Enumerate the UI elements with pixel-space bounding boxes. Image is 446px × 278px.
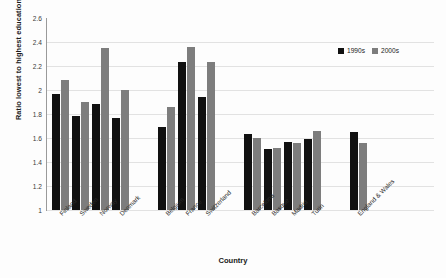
bar-group	[283, 18, 303, 210]
legend-item-1990s: 1990s	[338, 47, 365, 54]
bar-1990s-finland	[52, 94, 60, 210]
bar-2000s-finland	[61, 80, 69, 210]
x-axis-title: Country	[20, 256, 446, 265]
bar-group	[91, 18, 111, 210]
bar-2000s-switzerland	[207, 62, 215, 210]
bar-2000s-barcelona	[253, 138, 261, 210]
y-tick-label: 1.4	[33, 159, 42, 166]
bar-group	[197, 18, 217, 210]
y-tick-label: 2.4	[33, 39, 42, 46]
bar-group	[263, 18, 283, 210]
legend-item-2000s: 2000s	[372, 47, 399, 54]
legend-swatch-icon	[338, 48, 344, 54]
bar-1990s-switzerland	[198, 97, 206, 210]
x-axis-ticks: FinlandSwedenNorwayDenmarkBelgiumFranceS…	[46, 212, 433, 262]
legend-swatch-icon	[372, 48, 378, 54]
y-tick-label: 2.6	[33, 15, 42, 22]
y-tick-label: 1.8	[33, 111, 42, 118]
y-tick-label: 2.2	[33, 63, 42, 70]
y-tick-label: 2	[38, 87, 42, 94]
bar-2000s-england-wales	[359, 143, 367, 210]
bar-group	[177, 18, 197, 210]
bar-group	[111, 18, 131, 210]
bar-1990s-norway	[92, 104, 100, 210]
bar-2000s-belgium	[167, 107, 175, 210]
y-tick-label: 1.2	[33, 183, 42, 190]
bar-group	[51, 18, 71, 210]
bar-2000s-sweden	[81, 102, 89, 210]
chart-legend: 1990s2000s	[338, 47, 399, 54]
bar-2000s-denmark	[121, 90, 129, 210]
legend-label: 1990s	[347, 47, 365, 54]
bar-group	[157, 18, 177, 210]
bar-group	[243, 18, 263, 210]
y-tick-label: 1	[38, 207, 42, 214]
bar-1990s-barcelona	[244, 134, 252, 210]
y-axis-title: Ratio lowest to highest education	[14, 0, 23, 140]
bar-2000s-norway	[101, 48, 109, 210]
legend-label: 2000s	[381, 47, 399, 54]
bar-2000s-madrid	[293, 143, 301, 210]
bar-2000s-france	[187, 47, 195, 210]
bar-1990s-sweden	[72, 116, 80, 210]
chart-canvas: Ratio lowest to highest education 11.21.…	[0, 0, 446, 278]
bar-2000s-turin	[313, 131, 321, 210]
bar-1990s-england-wales	[350, 132, 358, 210]
bar-1990s-belgium	[158, 127, 166, 210]
bar-1990s-france	[178, 62, 186, 210]
bar-group	[71, 18, 91, 210]
y-tick-label: 1.6	[33, 135, 42, 142]
bar-group	[303, 18, 323, 210]
